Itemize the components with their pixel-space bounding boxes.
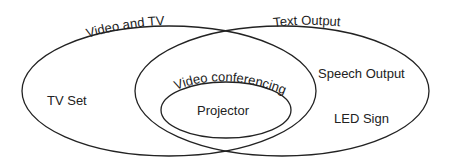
venn-diagram: Video and TV Text Output Video conferenc… bbox=[0, 0, 451, 167]
member-projector: Projector bbox=[197, 103, 250, 118]
set-label-video-and-tv: Video and TV bbox=[84, 13, 165, 41]
set-label-video-conferencing: Video conferencing bbox=[172, 69, 289, 97]
member-tv-set: TV Set bbox=[47, 93, 87, 108]
member-speech-output: Speech Output bbox=[318, 66, 405, 81]
member-led-sign: LED Sign bbox=[334, 111, 389, 126]
set-label-text-output: Text Output bbox=[272, 13, 341, 30]
